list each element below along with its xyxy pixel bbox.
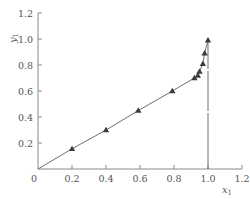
x-tick-label: 0.8 bbox=[166, 173, 181, 184]
x-tick-label: 0.4 bbox=[98, 173, 113, 184]
chart: 0.20.40.60.81.01.20.20.40.60.81.01.2 y1 … bbox=[0, 0, 250, 199]
x-axis-label: x1 bbox=[222, 184, 232, 197]
triangle-marker bbox=[200, 61, 206, 66]
y-tick-label: 1.0 bbox=[18, 34, 33, 45]
triangle-marker bbox=[201, 50, 207, 55]
tick-labels: 0.20.40.60.81.01.20.20.40.60.81.01.2 bbox=[18, 8, 250, 185]
x-tick-label: 1.0 bbox=[200, 173, 215, 184]
triangle-marker bbox=[196, 68, 202, 73]
y-tick-label: 1.2 bbox=[18, 8, 33, 19]
origin-label: 0 bbox=[31, 173, 37, 184]
series-line bbox=[38, 40, 208, 169]
triangle-marker bbox=[135, 107, 141, 112]
axis-labels: y1 x1 0 bbox=[7, 33, 232, 197]
x-tick-label: 0.2 bbox=[64, 173, 79, 184]
y-tick-label: 0.8 bbox=[18, 60, 33, 71]
axes bbox=[38, 13, 242, 169]
triangle-marker bbox=[69, 146, 75, 151]
triangle-marker bbox=[103, 127, 109, 132]
x-tick-label: 1.2 bbox=[234, 173, 249, 184]
triangle-marker bbox=[169, 88, 175, 93]
y-tick-label: 0.4 bbox=[18, 112, 33, 123]
x-tick-label: 0.6 bbox=[132, 173, 147, 184]
y-tick-label: 0.6 bbox=[18, 86, 33, 97]
data-series bbox=[38, 37, 211, 169]
triangle-marker bbox=[205, 37, 211, 42]
y-tick-label: 0.2 bbox=[18, 138, 33, 149]
